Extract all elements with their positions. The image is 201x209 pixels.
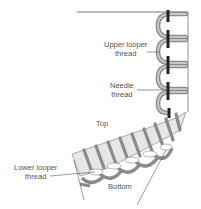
label-top: Top (96, 119, 108, 128)
label-needle-line1: Needle (110, 81, 134, 90)
label-needle-line2: thread (110, 90, 134, 99)
label-lower-looper-thread: Lower looper thread (14, 163, 57, 181)
label-upper-looper-line1: Upper looper (104, 40, 147, 49)
label-lower-looper-line1: Lower looper (14, 163, 57, 172)
label-upper-looper-line2: thread (104, 49, 147, 58)
label-lower-looper-line2: thread (14, 172, 57, 181)
needle-thread-bars (168, 10, 169, 118)
label-upper-looper-thread: Upper looper thread (104, 40, 147, 58)
label-bottom: Bottom (108, 182, 132, 191)
label-needle-thread: Needle thread (110, 81, 134, 99)
